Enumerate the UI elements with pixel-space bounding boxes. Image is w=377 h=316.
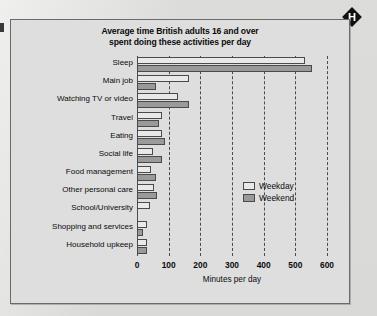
legend-label: Weekday [259,181,294,191]
x-tick-label: 500 [288,260,302,270]
bar-weekday [137,75,189,82]
chart-title: Average time British adults 16 and over … [11,26,349,48]
x-tick-label: 0 [135,260,140,270]
gridline [327,56,328,256]
category-axis-labels: SleepMain jobWatching TV or videoTravelE… [11,56,133,256]
value-axis-tick-labels: 0100200300400500600 [137,260,327,272]
x-tick-label: 600 [320,260,334,270]
bar-weekend [137,247,147,254]
category-label: Watching TV or video [11,94,133,103]
bar-weekday [137,239,147,246]
bar-weekend [137,138,165,145]
bar-weekday [137,112,162,119]
bar-weekday [137,221,147,228]
bar-weekday [137,166,151,173]
bar-weekend [137,156,162,163]
chart-title-line-1: Average time British adults 16 and over [101,26,258,36]
bar-weekend [137,65,312,72]
bar-weekend [137,192,157,199]
gridline [295,56,296,256]
bar-weekend [137,229,143,236]
bar-weekday [137,57,305,64]
gridline [232,56,233,256]
legend-label: Weekend [259,193,294,203]
bar-weekend [137,174,156,181]
legend-swatch-weekday [243,182,255,190]
category-label: Household upkeep [11,240,133,249]
x-tick-label: 300 [225,260,239,270]
bar-weekend [137,120,159,127]
legend-item: Weekend [243,192,323,203]
category-label: Sleep [11,58,133,67]
category-label: Social life [11,149,133,158]
x-tick-label: 100 [162,260,176,270]
legend-swatch-weekend [243,194,255,202]
gridline [264,56,265,256]
chart-title-line-2: spent doing these activities per day [11,37,349,48]
x-tick-label: 200 [193,260,207,270]
category-label: Travel [11,113,133,122]
bar-weekend [137,101,189,108]
category-label: Eating [11,131,133,140]
category-label: Shopping and services [11,222,133,231]
bar-weekday [137,184,154,191]
legend-item: Weekday [243,180,323,191]
bar-weekday [137,202,150,209]
x-tick-label: 400 [257,260,271,270]
gridline [200,56,201,256]
category-label: School/University [11,203,133,212]
plot-area [137,56,327,256]
chart-legend: WeekdayWeekend [243,180,323,204]
chart-container: Average time British adults 16 and over … [10,19,350,304]
gridline [169,56,170,256]
bar-weekend [137,83,156,90]
bar-weekday [137,148,153,155]
category-label: Main job [11,76,133,85]
bar-weekday [137,130,162,137]
category-label: Other personal care [11,185,133,194]
x-axis-title: Minutes per day [137,275,327,284]
page-edge-mark [0,23,4,32]
bar-weekday [137,93,178,100]
category-label: Food management [11,167,133,176]
